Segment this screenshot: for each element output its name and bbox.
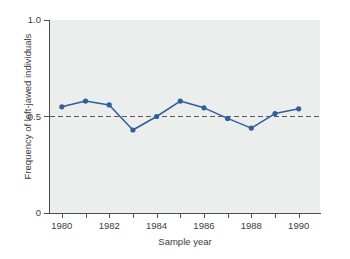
x-axis-tick [299, 214, 300, 218]
chart-figure: 1.00.50 198019821984198619881990 Frequen… [0, 0, 350, 259]
x-axis-title: Sample year [50, 236, 320, 247]
data-point-marker [83, 98, 88, 103]
data-point-marker [272, 111, 277, 116]
x-axis-tick [109, 214, 110, 218]
x-axis-line [49, 213, 321, 214]
plot-area [50, 20, 320, 213]
y-axis-title: Frequency of left-jawed individuals [22, 9, 33, 205]
data-point-marker [225, 116, 230, 121]
data-point-marker [154, 114, 159, 119]
x-axis-tick [204, 214, 205, 218]
data-point-marker [178, 98, 183, 103]
y-axis-tick-label: 0 [36, 208, 41, 218]
x-axis-tick [86, 214, 87, 218]
x-axis-tick [228, 214, 229, 218]
x-axis-tick [62, 214, 63, 218]
data-point-marker [201, 105, 206, 110]
x-axis-tick-label: 1986 [187, 220, 221, 231]
data-point-marker [249, 125, 254, 130]
x-axis-tick-label: 1988 [234, 220, 268, 231]
x-axis-tick [251, 214, 252, 218]
y-axis-tick [44, 116, 49, 117]
data-point-marker [296, 106, 301, 111]
x-axis-tick-label: 1980 [45, 220, 79, 231]
x-axis-tick-label: 1984 [140, 220, 174, 231]
y-axis-tick [44, 20, 49, 21]
x-axis-tick [180, 214, 181, 218]
data-marker-group [59, 98, 301, 132]
data-line [62, 101, 299, 130]
x-axis-tick-label: 1982 [92, 220, 126, 231]
data-point-marker [130, 127, 135, 132]
data-series-group [62, 101, 299, 130]
x-axis-tick [157, 214, 158, 218]
x-axis-tick [275, 214, 276, 218]
data-point-marker [107, 102, 112, 107]
x-axis-tick-label: 1990 [282, 220, 316, 231]
x-axis-tick [133, 214, 134, 218]
y-axis-tick [44, 213, 49, 214]
data-point-marker [59, 104, 64, 109]
plot-svg [50, 20, 320, 213]
y-axis-line [49, 20, 50, 214]
